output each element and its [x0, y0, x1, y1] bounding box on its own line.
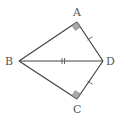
segment-ad: [77, 22, 103, 61]
segment-ab: [19, 22, 77, 61]
label-a: A: [72, 6, 82, 19]
label-b: B: [5, 55, 13, 68]
geometry-diagram: A B C D: [0, 0, 124, 124]
segment-cd: [77, 61, 103, 99]
label-d: D: [106, 55, 115, 68]
right-angle-mark-a: [72, 22, 80, 30]
segment-bc: [19, 61, 77, 99]
label-c: C: [73, 103, 81, 116]
right-angle-mark-c: [72, 91, 80, 99]
